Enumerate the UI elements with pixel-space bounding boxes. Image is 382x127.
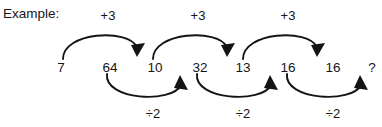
top-arc-3 [243, 35, 325, 59]
bottom-arc-3-arrowhead [354, 75, 368, 90]
bottom-arc-1 [107, 74, 188, 97]
top-arc-1-curve [63, 35, 137, 59]
bottom-arc-2-curve [197, 74, 271, 97]
top-arc-2-curve [153, 35, 227, 59]
diagram-canvas: Example: +3 +3 +3 7 64 10 32 13 16 16 ? … [0, 0, 382, 127]
top-arc-1 [63, 35, 145, 59]
sequence-number-1: 7 [57, 61, 65, 75]
bottom-arc-1-arrowhead [174, 75, 188, 90]
example-label: Example: [3, 7, 59, 21]
bottom-arc-2-arrowhead [264, 75, 278, 90]
bottom-arc-1-curve [107, 74, 181, 97]
sequence-number-3: 10 [147, 61, 162, 75]
top-operation-label-1: +3 [101, 9, 116, 22]
bottom-operation-label-3: ÷2 [326, 107, 340, 120]
top-arc-3-arrowhead [311, 43, 325, 57]
sequence-number-4: 32 [192, 61, 207, 75]
bottom-operation-label-1: ÷2 [146, 107, 160, 120]
top-arc-3-curve [243, 35, 317, 59]
top-operation-label-3: +3 [281, 9, 296, 22]
top-arc-1-arrowhead [131, 43, 145, 57]
sequence-number-5: 13 [235, 61, 250, 75]
sequence-unknown-placeholder: ? [368, 61, 376, 75]
bottom-arc-2 [197, 74, 278, 97]
sequence-number-7: 16 [325, 61, 340, 75]
bottom-arc-3 [287, 74, 368, 97]
top-arc-2-arrowhead [221, 43, 235, 57]
top-arc-2 [153, 35, 235, 59]
bottom-arc-3-curve [287, 74, 361, 97]
bottom-operation-label-2: ÷2 [236, 107, 250, 120]
sequence-number-6: 16 [280, 61, 295, 75]
top-operation-label-2: +3 [191, 9, 206, 22]
sequence-number-2: 64 [102, 61, 117, 75]
